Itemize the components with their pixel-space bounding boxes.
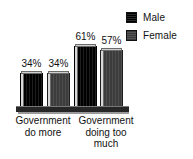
category-label-1: Government do more bbox=[10, 115, 76, 138]
bar-male-group-1: 34% bbox=[20, 73, 43, 107]
legend-label-male: Male bbox=[143, 12, 165, 23]
category-axis-labels: Government do more Government doing too … bbox=[0, 112, 145, 159]
plot-area: 34% 34% 61% 57% bbox=[0, 0, 145, 159]
bar-rect-male-group-2 bbox=[74, 46, 97, 107]
category-label-2-line2: doing too bbox=[72, 127, 140, 139]
bar-male-group-2: 61% bbox=[74, 46, 97, 107]
bar-rect-female-group-2 bbox=[100, 50, 123, 107]
bar-rect-male-group-1 bbox=[20, 73, 43, 107]
bar-female-group-1: 34% bbox=[47, 73, 70, 107]
bar-value-female-group-1: 34% bbox=[43, 58, 74, 69]
bar-female-group-2: 57% bbox=[100, 50, 123, 107]
bar-rect-female-group-1 bbox=[47, 73, 70, 107]
bar-value-female-group-2: 57% bbox=[96, 35, 127, 46]
category-label-1-line1: Government bbox=[10, 115, 76, 127]
bar-group-1-bars: 34% 34% bbox=[20, 73, 70, 107]
legend-label-female: Female bbox=[143, 30, 177, 41]
category-label-2: Government doing too much bbox=[72, 115, 140, 150]
category-label-2-line3: much bbox=[72, 138, 140, 150]
bar-chart: Male Female 34% 34% bbox=[0, 0, 193, 159]
bar-group-2-bars: 61% 57% bbox=[74, 46, 123, 107]
category-label-1-line2: do more bbox=[10, 127, 76, 139]
category-label-2-line1: Government bbox=[72, 115, 140, 127]
